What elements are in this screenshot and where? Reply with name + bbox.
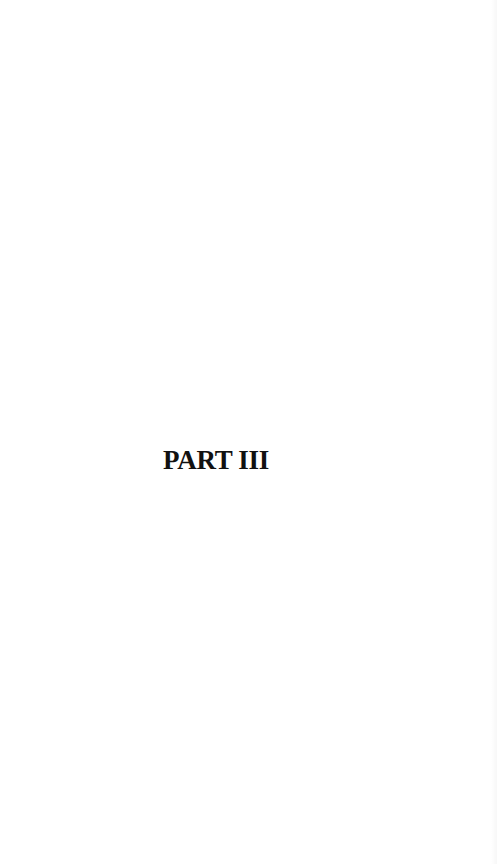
document-page: PART III xyxy=(0,0,497,864)
page-edge-shadow xyxy=(491,0,497,864)
part-title: PART III xyxy=(163,443,269,477)
